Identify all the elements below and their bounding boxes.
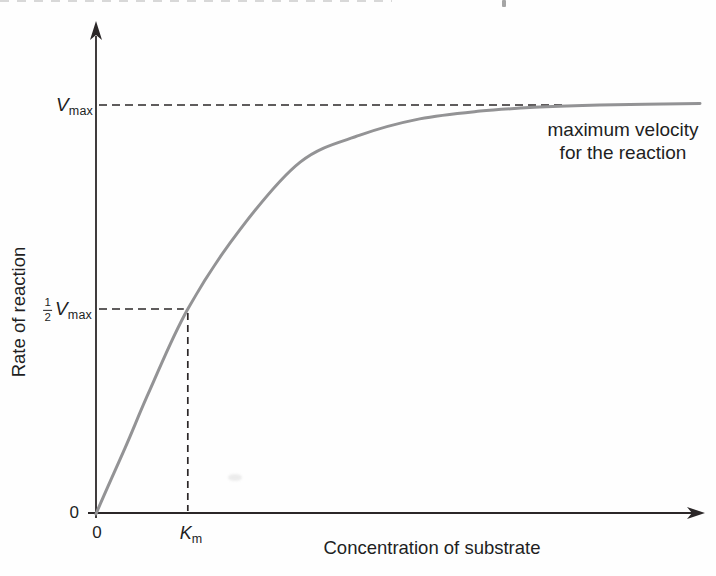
x-axis-zero-label: 0 (92, 523, 101, 543)
y-axis-title: Rate of reaction (8, 247, 30, 378)
half-vmax-tick-label: 1 2 Vmax (43, 297, 92, 323)
vmax-tick-label: Vmax (56, 94, 93, 118)
vmax-subscript: max (69, 104, 93, 118)
km-symbol: K (180, 523, 192, 543)
chart-canvas (0, 0, 716, 576)
annotation-line2: for the reaction (548, 142, 699, 165)
vmax-symbol: V (56, 94, 69, 115)
km-tick-label: Km (180, 523, 203, 546)
fraction-denominator: 2 (44, 312, 50, 324)
y-axis-zero-label: 0 (70, 503, 79, 523)
reaction-rate-curve (96, 103, 700, 514)
km-subscript: m (192, 532, 203, 546)
x-axis-title: Concentration of substrate (324, 537, 541, 559)
fraction-numerator: 1 (44, 297, 50, 309)
half-vmax-symbol-group: Vmax (55, 298, 92, 322)
annotation-line1: maximum velocity (548, 119, 699, 142)
michaelis-menten-figure: Vmax 1 2 Vmax 0 0 Km Concentration of su… (0, 0, 716, 576)
max-velocity-annotation: maximum velocity for the reaction (548, 119, 699, 165)
one-half-fraction: 1 2 (43, 297, 52, 323)
